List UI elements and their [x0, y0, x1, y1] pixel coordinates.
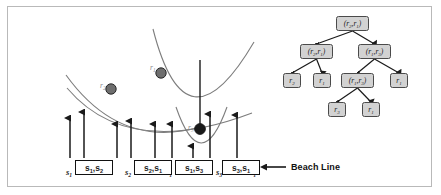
breakpoint-pair-label: s3,s1	[232, 163, 250, 173]
breakpoint-pair-label: s1,s2	[85, 163, 103, 173]
tree-node-label: r1	[368, 106, 373, 114]
tree-node-n8[interactable]: r1	[362, 102, 380, 117]
breakpoint-pair-box: s1,s3	[175, 160, 213, 175]
site-label: r2	[100, 82, 106, 90]
site-label: r1	[150, 64, 156, 72]
tree-node-label: (r1,r3)	[366, 48, 384, 56]
tree-node-n0[interactable]: (r2,r1)	[336, 16, 369, 31]
site-point-r3	[195, 124, 206, 135]
site-label: r3	[188, 124, 194, 132]
breakpoint-pair-box: s3,s1	[222, 160, 260, 175]
tree-node-n1[interactable]: (r2,r1)	[300, 44, 333, 59]
tree-node-n7[interactable]: r3	[328, 102, 346, 117]
tree-node-label: r3	[334, 106, 339, 114]
beach-line-label: Beach Line	[291, 162, 340, 172]
tree-node-n5[interactable]: (r1,r3)	[341, 73, 374, 88]
tree-node-label: (r2,r1)	[308, 48, 326, 56]
tree-node-n2[interactable]: (r1,r3)	[358, 44, 391, 59]
bottom-site-label: s1	[66, 168, 72, 177]
tree-node-label: r2	[289, 77, 294, 85]
breakpoint-pair-label: s2,s1	[144, 163, 162, 173]
figure-root: r2r1r3 s1s2s1s3s1 s1,s2s2,s1s1,s3s3,s1 (…	[0, 0, 441, 195]
breakpoint-pair-box: s2,s1	[134, 160, 172, 175]
breakpoint-pair-label: s1,s3	[185, 163, 203, 173]
site-point-r1	[156, 68, 166, 78]
tree-node-label: r1	[396, 77, 401, 85]
bottom-site-label: s2	[125, 168, 131, 177]
tree-node-n3[interactable]: r2	[283, 73, 301, 88]
tree-node-label: (r1,r3)	[349, 77, 367, 85]
tree-node-n4[interactable]: r1	[313, 73, 331, 88]
site-point-group	[0, 0, 441, 195]
tree-node-label: r1	[319, 77, 324, 85]
tree-node-label: (r2,r1)	[344, 20, 362, 28]
tree-node-n6[interactable]: r1	[390, 73, 408, 88]
breakpoint-pair-box: s1,s2	[75, 160, 113, 175]
site-point-r2	[106, 84, 116, 94]
